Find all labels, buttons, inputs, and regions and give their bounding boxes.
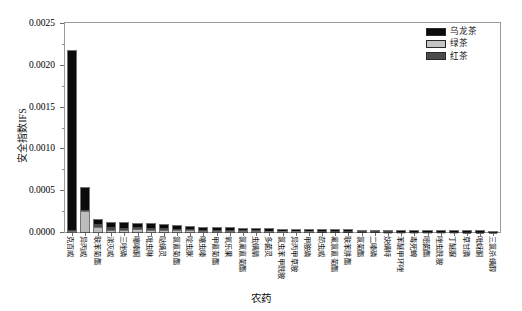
x-tick-label: 异丙甲草胺 xyxy=(291,236,299,272)
bar-column xyxy=(397,231,405,232)
y-axis-title: 安全指数IFS xyxy=(14,81,29,191)
x-tick-label: 氯氟氰菊酯 xyxy=(238,236,246,272)
x-tick-label: 多菌灵 xyxy=(264,236,272,258)
bar-column xyxy=(437,231,445,232)
x-tick-label: 克百威 xyxy=(67,236,75,258)
x-axis-title: 农药 xyxy=(0,290,522,305)
x-tick-label: 涕灭威 xyxy=(106,236,114,258)
bar-column xyxy=(476,231,484,232)
bar-segment-oolong xyxy=(81,188,89,211)
bar-column xyxy=(278,230,286,233)
bar-column xyxy=(199,228,207,233)
bar-segment-green xyxy=(81,211,89,233)
x-tick-label: 嘧菌酯 xyxy=(423,236,431,258)
y-tick-label: 0.0010 xyxy=(29,143,55,153)
x-tick-label: 氟氯氰菊酯 xyxy=(330,236,338,272)
x-tick-label: 茚虫威 xyxy=(317,236,325,258)
x-tick-label: 异丙威 xyxy=(80,236,88,258)
legend-item-black: 红茶 xyxy=(426,51,500,62)
bar-column xyxy=(423,231,431,232)
bar-column xyxy=(94,220,102,232)
bar-column xyxy=(133,224,141,232)
x-tick-label: 炔螨特 xyxy=(383,236,391,258)
x-tick-label: 丁醚脲 xyxy=(449,236,457,258)
x-tick-label: 虫螨腈 xyxy=(251,236,259,258)
chart-root: 0.00000.00050.00100.00150.00200.0025 安全指… xyxy=(0,0,522,311)
bar-column xyxy=(358,231,366,232)
x-tick-label: 氯虫苯甲酰胺 xyxy=(278,236,286,279)
y-axis-ticks: 0.00000.00050.00100.00150.00200.0025 xyxy=(0,0,64,311)
bar-column xyxy=(252,229,260,232)
x-tick-label: 吡蚜酮 xyxy=(475,236,483,258)
bar-column xyxy=(371,231,379,232)
bar-column xyxy=(292,230,300,232)
x-tick-label: 氯菊酯 xyxy=(357,236,365,258)
x-tick-label: 草甘膦 xyxy=(462,236,470,258)
x-tick-label: 唑虫酰胺 xyxy=(436,236,444,265)
x-tick-label: 甲胺磷 xyxy=(304,236,312,258)
bar-column xyxy=(463,231,471,232)
bar-column xyxy=(331,230,339,232)
x-tick-label: 哒螨灵 xyxy=(159,236,167,258)
legend-label-green: 绿茶 xyxy=(450,38,468,49)
y-tick-label: 0.0020 xyxy=(29,60,55,70)
x-tick-label: 三唑磷 xyxy=(119,236,127,258)
bar-column xyxy=(173,226,181,232)
y-tick-label: 0.0000 xyxy=(29,227,55,237)
bar-segment-oolong xyxy=(68,51,76,231)
legend: 乌龙茶 绿茶 红茶 xyxy=(426,26,500,63)
bar-column xyxy=(213,228,221,232)
x-tick-label: 噻嗪酮 xyxy=(133,236,141,258)
x-tick-label: 氯氰菊酯 xyxy=(172,236,180,265)
bar-column xyxy=(265,229,273,232)
x-tick-label: 联苯肼酯 xyxy=(343,236,351,265)
x-tick-label: 氧乐果 xyxy=(225,236,233,258)
bar-column xyxy=(107,223,115,232)
y-tick-label: 0.0005 xyxy=(29,185,55,195)
bar-column xyxy=(68,51,76,232)
x-tick-label: 二嗪磷 xyxy=(370,236,378,258)
bar-column xyxy=(81,188,89,232)
bar-column xyxy=(410,231,418,232)
bar-column xyxy=(147,224,155,232)
x-tick-label: 毒死蜱 xyxy=(409,236,417,258)
bar-column xyxy=(344,230,352,232)
bar-column xyxy=(318,230,326,232)
legend-swatch-icon-black xyxy=(426,52,446,60)
bar-column xyxy=(120,223,128,232)
legend-item-oolong: 乌龙茶 xyxy=(426,26,500,37)
bar-column xyxy=(226,228,234,232)
bar-column xyxy=(160,225,168,232)
bar-column xyxy=(239,229,247,232)
x-tick-label: 苯醚甲环唑 xyxy=(396,236,404,272)
bar-column xyxy=(450,231,458,232)
x-tick-label: 甲氰菊酯 xyxy=(212,236,220,265)
bar-column xyxy=(384,231,392,232)
legend-item-green: 绿茶 xyxy=(426,38,500,49)
x-tick-label: 噻虫嗪 xyxy=(198,236,206,258)
legend-label-black: 红茶 xyxy=(450,51,468,62)
x-tick-label: 联苯菊酯 xyxy=(93,236,101,265)
clipped-header-strip xyxy=(0,0,522,9)
legend-swatch-icon-green xyxy=(426,40,446,48)
x-tick-label: 三氯杀螨醇 xyxy=(488,236,496,272)
bar-column xyxy=(305,230,313,232)
bar-column xyxy=(186,227,194,232)
x-tick-label: 啶虫脒 xyxy=(185,236,193,258)
legend-swatch-icon-oolong xyxy=(426,28,446,36)
y-tick-label: 0.0015 xyxy=(29,102,55,112)
x-tick-label: 吡虫啉 xyxy=(146,236,154,258)
y-tick-label: 0.0025 xyxy=(29,18,55,28)
legend-label-oolong: 乌龙茶 xyxy=(450,26,477,37)
